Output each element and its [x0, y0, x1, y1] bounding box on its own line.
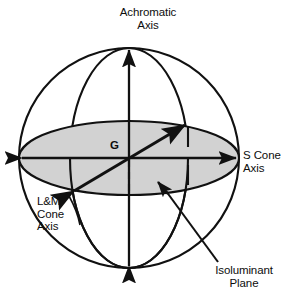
isoluminant-plane-leader-line: [166, 191, 218, 262]
s-cone-axis-label: S Cone Axis: [243, 149, 281, 174]
isoluminant-plane-label: Isoluminant Plane: [196, 264, 292, 289]
origin-label: G: [110, 139, 119, 151]
achromatic-axis-label: Achromatic Axis: [0, 6, 296, 31]
isoluminant-plane-diagram: Achromatic Axis S Cone Axis L&M Cone Axi…: [0, 0, 296, 298]
lm-cone-axis-label: L&M Cone Axis: [37, 195, 64, 233]
